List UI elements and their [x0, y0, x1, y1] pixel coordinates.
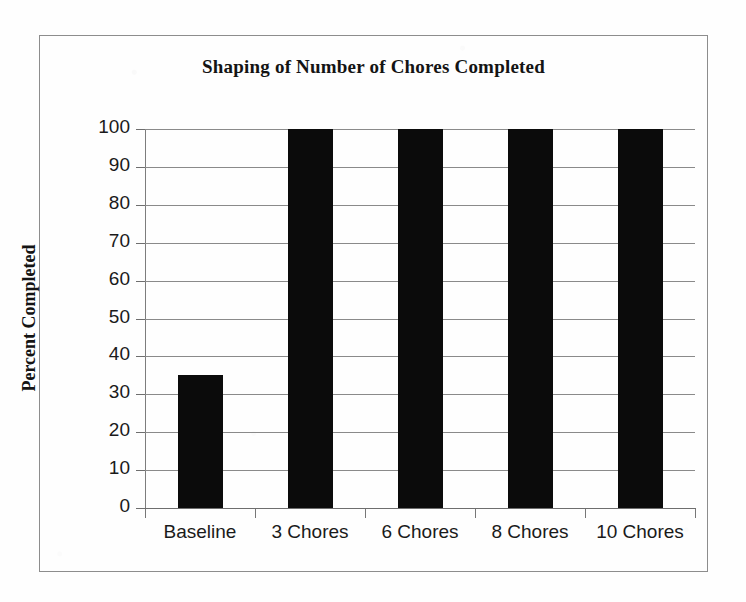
scanned-page: Shaping of Number of Chores Completed Pe… [0, 0, 746, 602]
x-tick-mark-1 [255, 509, 256, 518]
y-tick-mark-50 [136, 319, 145, 320]
y-tick-label-100: 100 [56, 116, 130, 138]
x-axis-label-10-chores: 10 Chores [585, 521, 695, 543]
y-tick-label-50: 50 [56, 306, 130, 328]
y-tick-mark-30 [136, 394, 145, 395]
bar-6-chores [398, 129, 443, 508]
y-tick-mark-0 [136, 508, 145, 509]
x-tick-mark-2 [365, 509, 366, 518]
y-tick-mark-60 [136, 281, 145, 282]
plot-area [145, 129, 695, 508]
y-tick-label-60: 60 [56, 268, 130, 290]
x-tick-mark-3 [475, 509, 476, 518]
x-axis-label-8-chores: 8 Chores [475, 521, 585, 543]
y-tick-mark-100 [136, 129, 145, 130]
x-tick-mark-5 [695, 509, 696, 518]
x-axis-label-6-chores: 6 Chores [365, 521, 475, 543]
chart-title: Shaping of Number of Chores Completed [39, 56, 708, 78]
x-axis-label-3-chores: 3 Chores [255, 521, 365, 543]
y-tick-mark-10 [136, 470, 145, 471]
y-tick-label-80: 80 [56, 192, 130, 214]
x-axis-label-baseline: Baseline [145, 521, 255, 543]
y-axis-title: Percent Completed [19, 244, 40, 391]
bar-10-chores [618, 129, 663, 508]
y-tick-label-30: 30 [56, 381, 130, 403]
y-tick-label-20: 20 [56, 419, 130, 441]
y-tick-mark-20 [136, 432, 145, 433]
x-axis-line [145, 508, 696, 509]
y-tick-label-10: 10 [56, 457, 130, 479]
bar-8-chores [508, 129, 553, 508]
bar-3-chores [288, 129, 333, 508]
y-tick-mark-80 [136, 205, 145, 206]
y-tick-label-70: 70 [56, 230, 130, 252]
y-tick-mark-40 [136, 356, 145, 357]
y-tick-label-0: 0 [56, 495, 130, 517]
x-tick-mark-0 [145, 509, 146, 518]
y-tick-mark-70 [136, 243, 145, 244]
x-tick-mark-4 [585, 509, 586, 518]
y-tick-mark-90 [136, 167, 145, 168]
bar-baseline [178, 375, 223, 508]
y-tick-label-40: 40 [56, 343, 130, 365]
y-tick-label-90: 90 [56, 154, 130, 176]
